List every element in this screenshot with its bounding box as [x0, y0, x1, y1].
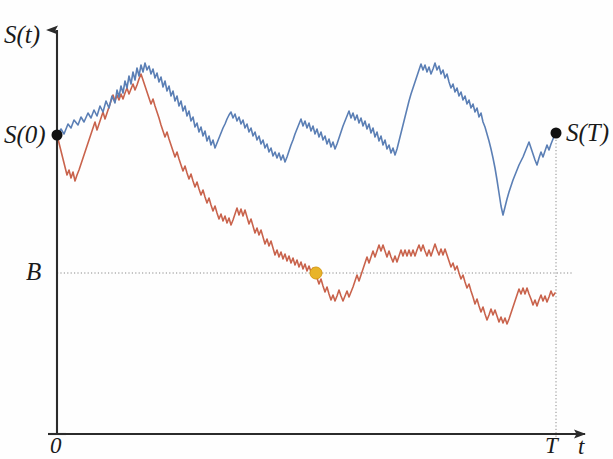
x-axis-label: t: [578, 435, 584, 458]
brownian-path-figure: S(t) S(0) B S(T) 0 T t: [0, 0, 613, 459]
reference-lines: [57, 133, 572, 437]
barrier-label: B: [26, 259, 41, 284]
series-group: [57, 63, 556, 324]
barrier-touch-marker: [310, 267, 322, 279]
plot-canvas: [0, 0, 613, 459]
y-axis-label: S(t): [4, 22, 40, 47]
end-point-marker: [551, 128, 562, 139]
start-point-marker: [52, 130, 63, 141]
origin-label: 0: [50, 434, 62, 457]
end-value-label: S(T): [566, 120, 609, 145]
asset-path-red: [57, 74, 555, 324]
start-value-label: S(0): [4, 122, 46, 147]
point-markers: [52, 128, 562, 280]
terminal-time-label: T: [545, 434, 558, 457]
